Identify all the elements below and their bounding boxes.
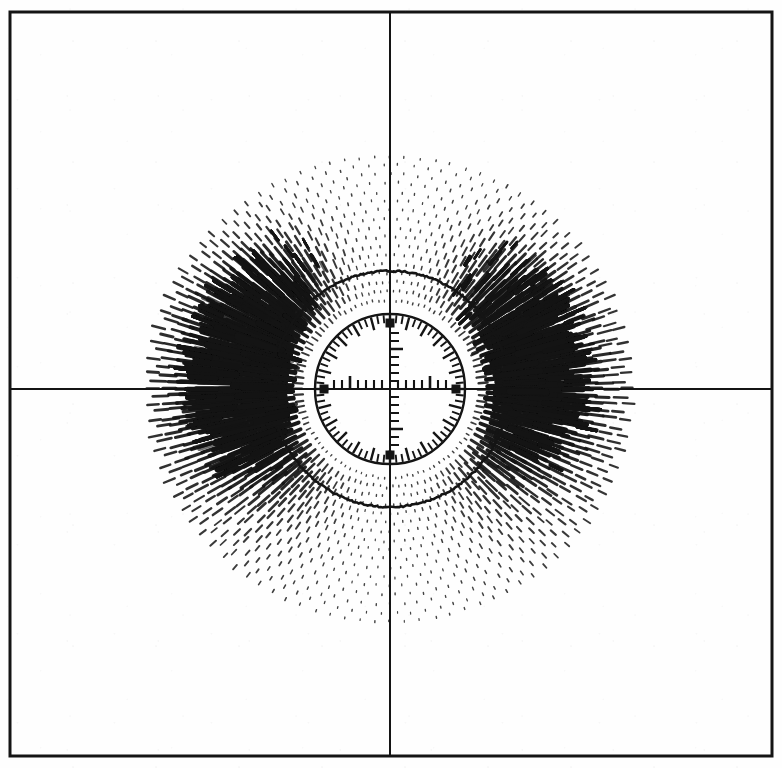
figure-root: [0, 0, 782, 768]
polar-vector-field-plot: [0, 0, 782, 768]
